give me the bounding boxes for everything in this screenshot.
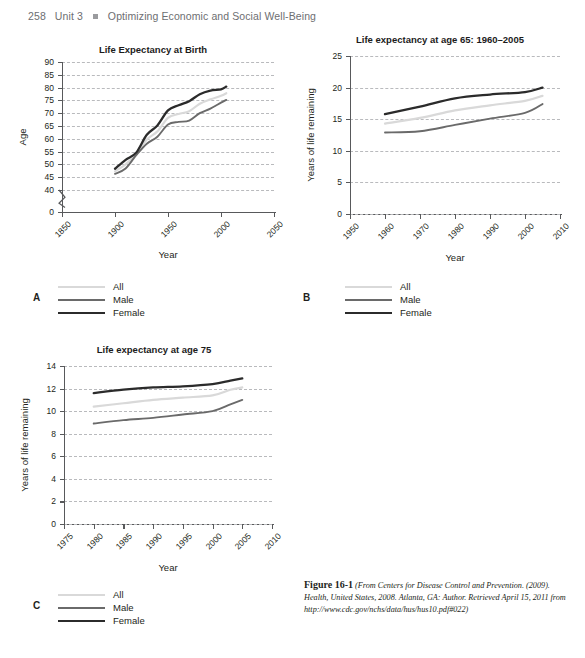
legend-item-all: All [345, 280, 432, 293]
legend-item-all: All [58, 588, 145, 601]
x-axis-tick [64, 524, 65, 529]
textbook-page: 258 Unit 3 Optimizing Economic and Socia… [0, 0, 585, 658]
y-axis-tick-label: 25 [302, 51, 342, 61]
legend-item-male: Male [58, 601, 145, 614]
legend-label-female: Female [113, 615, 145, 626]
series-layer [350, 56, 560, 214]
figure-caption: Figure 16-1 (From Centers for Disease Co… [304, 578, 572, 615]
legend-swatch-all-icon [345, 286, 392, 288]
chart-a-x-axis-label: Year [62, 249, 274, 260]
y-axis-tick-label: 75 [14, 95, 54, 105]
legend-item-female: Female [345, 306, 432, 319]
series-line-male [115, 100, 226, 174]
y-axis-tick-label: 80 [14, 83, 54, 93]
series-layer [62, 62, 274, 212]
running-head: 258 Unit 3 Optimizing Economic and Socia… [28, 10, 316, 22]
legend-item-female: Female [58, 614, 145, 627]
x-axis-tick [168, 212, 169, 217]
legend-label-all: All [113, 281, 124, 292]
legend-item-male: Male [58, 293, 145, 306]
x-axis-tick [455, 214, 456, 219]
y-axis-tick-label: 2 [16, 496, 56, 506]
x-axis-tick [213, 524, 214, 529]
y-axis-tick-label: 85 [14, 70, 54, 80]
square-bullet-icon [93, 14, 98, 19]
chart-b-plot-area: 05101520251950196019701980199020002010 [350, 56, 560, 214]
unit-label: Unit 3 [55, 10, 83, 22]
page-number: 258 [28, 10, 46, 22]
y-axis-tick-label: 55 [14, 147, 54, 157]
legend-label-male: Male [113, 602, 134, 613]
chart-a-plot-area: 0404550556065707580859018501900195020002… [62, 62, 274, 212]
legend-swatch-all-icon [58, 286, 105, 288]
chart-c-legend: All Male Female [58, 588, 145, 627]
chart-c-plot-area: 0246810121419751980198519901995200020052… [64, 366, 272, 524]
y-axis-tick-label: 0 [14, 207, 54, 217]
legend-label-female: Female [400, 307, 432, 318]
chart-a-y-axis-label: Age [17, 129, 28, 146]
legend-label-male: Male [400, 294, 421, 305]
x-axis-tick [560, 214, 561, 219]
x-axis-tick [525, 214, 526, 219]
chart-b-y-axis-label: Years of life remaining [305, 88, 316, 182]
legend-swatch-female-icon [345, 312, 392, 314]
y-axis-tick-label: 12 [16, 384, 56, 394]
panel-letter-a: A [33, 292, 40, 303]
x-axis-tick [183, 524, 184, 529]
chart-life-expectancy-age-65: Life expectancy at age 65: 1960–2005 051… [300, 34, 580, 274]
gridline [64, 524, 272, 525]
x-axis-tick [221, 212, 222, 217]
legend-item-female: Female [58, 306, 145, 319]
y-axis-tick-label: 45 [14, 172, 54, 182]
series-line-female [94, 378, 243, 393]
figure-number: Figure 16-1 [304, 579, 353, 590]
y-axis-tick-label: 50 [14, 159, 54, 169]
x-axis-tick [94, 524, 95, 529]
y-axis-tick-label: 40 [14, 185, 54, 195]
chart-c-x-axis-label: Year [64, 562, 272, 573]
y-axis-tick-label: 0 [16, 519, 56, 529]
y-axis-tick-label: 70 [14, 108, 54, 118]
series-layer [64, 366, 272, 524]
y-axis-tick-label: 0 [302, 209, 342, 219]
y-axis-tick-label: 14 [16, 361, 56, 371]
chart-c-title: Life expectancy at age 75 [14, 344, 294, 355]
chart-life-expectancy-at-birth: Life Expectancy at Birth 040455055606570… [14, 44, 292, 274]
legend-label-all: All [113, 589, 124, 600]
chart-life-expectancy-age-75: Life expectancy at age 75 02468101214197… [14, 344, 294, 584]
legend-item-all: All [58, 280, 145, 293]
legend-swatch-male-icon [58, 299, 105, 301]
y-axis-tick-label: 90 [14, 57, 54, 67]
legend-label-male: Male [113, 294, 134, 305]
chart-a-legend: All Male Female [58, 280, 145, 319]
x-axis-tick [242, 524, 243, 529]
legend-label-all: All [400, 281, 411, 292]
chart-b-legend: All Male Female [345, 280, 432, 319]
chart-b-x-axis-label: Year [350, 252, 560, 263]
panel-letter-b: B [303, 292, 310, 303]
x-axis-tick [62, 212, 63, 217]
legend-swatch-female-icon [58, 620, 105, 622]
legend-label-female: Female [113, 307, 145, 318]
chart-c-y-axis-label: Years of life remaining [19, 398, 30, 492]
x-axis-tick [123, 524, 124, 529]
x-axis-tick [274, 212, 275, 217]
legend-swatch-male-icon [345, 299, 392, 301]
panel-letter-c: C [33, 600, 40, 611]
x-axis-tick [420, 214, 421, 219]
legend-swatch-male-icon [58, 607, 105, 609]
legend-swatch-all-icon [58, 594, 105, 596]
x-axis-tick [115, 212, 116, 217]
x-axis-tick [153, 524, 154, 529]
chart-a-title: Life Expectancy at Birth [14, 44, 292, 55]
x-axis-tick [385, 214, 386, 219]
legend-item-male: Male [345, 293, 432, 306]
x-axis-tick [272, 524, 273, 529]
x-axis-tick [490, 214, 491, 219]
unit-title: Optimizing Economic and Social Well-Bein… [108, 10, 316, 22]
chart-b-title: Life expectancy at age 65: 1960–2005 [300, 34, 580, 45]
x-axis-tick [350, 214, 351, 219]
legend-swatch-female-icon [58, 312, 105, 314]
